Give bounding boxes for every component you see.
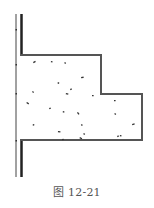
aggregate-speckle (120, 135, 122, 137)
figure-caption: 图 12-21 (0, 183, 154, 199)
aggregate-speckle (132, 123, 135, 125)
aggregate-speckle (64, 62, 66, 64)
wall-tick-mark (16, 64, 18, 66)
aggregate-speckle (117, 135, 119, 137)
aggregate-speckle (81, 124, 83, 126)
aggregate-speckle (63, 111, 65, 113)
aggregate-speckle (77, 112, 80, 115)
concrete-block-outline (21, 55, 142, 140)
aggregate-speckle (92, 95, 94, 96)
aggregate-speckle (114, 100, 116, 101)
wall-tick-mark (16, 29, 18, 31)
aggregate-speckle (62, 139, 64, 141)
aggregate-speckle (49, 107, 51, 109)
wall-tick-mark (16, 93, 18, 95)
wall-tick-mark (16, 140, 18, 142)
aggregate-speckle (51, 61, 53, 62)
aggregate-speckle (33, 124, 35, 126)
cross-section-drawing (0, 0, 154, 208)
aggregate-speckle (83, 133, 85, 135)
aggregate-speckle (58, 131, 61, 133)
aggregate-speckle (32, 91, 34, 93)
aggregate-speckle (26, 102, 29, 104)
diagram-figure: 图 12-21 (0, 0, 154, 208)
aggregate-speckle (66, 93, 69, 95)
aggregate-speckle (114, 113, 116, 115)
aggregate-speckle (70, 88, 72, 90)
aggregate-speckle (81, 77, 84, 79)
aggregate-speckle (57, 82, 59, 84)
concrete-aggregate-speckles (26, 61, 134, 141)
aggregate-speckle (33, 61, 36, 63)
aggregate-speckle (79, 137, 82, 139)
